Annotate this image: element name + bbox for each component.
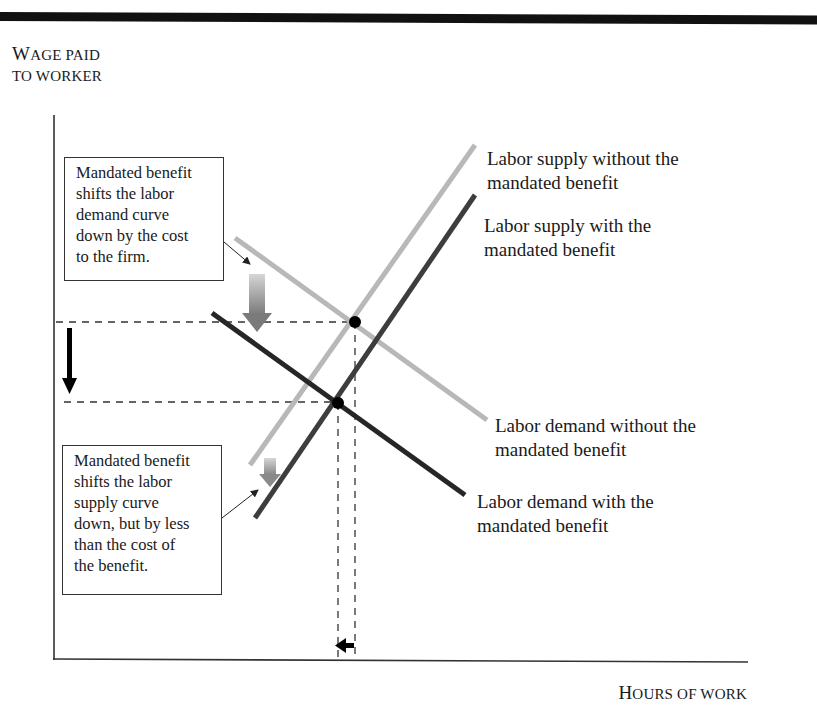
- label-demand-without-benefit: Labor demand without the mandated benefi…: [495, 414, 696, 462]
- labor-supply-with-benefit: [255, 195, 475, 518]
- new-equilibrium-point: [332, 397, 344, 409]
- demand-shift-note: Mandated benefit shifts the labor demand…: [64, 157, 224, 281]
- x-axis-title: HOURS OF WORK: [618, 682, 747, 705]
- initial-equilibrium-point: [349, 316, 361, 328]
- note-line: shifts the labor: [74, 471, 213, 492]
- note-line: to the firm.: [76, 246, 215, 267]
- note-line: Mandated benefit: [74, 450, 213, 471]
- note-line: than the cost of: [74, 534, 213, 555]
- label-line: mandated benefit: [477, 514, 654, 538]
- curves: [212, 145, 487, 518]
- label-line: mandated benefit: [495, 438, 696, 462]
- diagram-canvas: [0, 0, 817, 718]
- label-line: Labor supply with the: [484, 214, 651, 238]
- labor-supply-without-benefit: [250, 145, 475, 465]
- bottom-note-pointer: [222, 490, 258, 518]
- note-line: Mandated benefit: [76, 162, 215, 183]
- y-axis-title: WAGE PAID TO WORKER: [12, 43, 102, 87]
- x-axis-title-rest: OURS OF WORK: [632, 686, 747, 702]
- label-line: mandated benefit: [487, 171, 679, 195]
- label-supply-with-benefit: Labor supply with the mandated benefit: [484, 214, 651, 262]
- y-axis-title-initial: W: [12, 43, 30, 64]
- note-line: the benefit.: [74, 555, 213, 576]
- label-demand-with-benefit: Labor demand with the mandated benefit: [477, 490, 654, 538]
- note-line: supply curve: [74, 492, 213, 513]
- label-line: Labor demand without the: [495, 414, 696, 438]
- demand-shift-arrow-icon: [242, 274, 272, 332]
- wage-decrease-arrow-icon: [62, 328, 77, 394]
- note-line: shifts the labor: [76, 183, 215, 204]
- label-line: Labor supply without the: [487, 147, 679, 171]
- label-line: Labor demand with the: [477, 490, 654, 514]
- labor-demand-without-benefit: [235, 238, 487, 420]
- y-axis-title-line2: TO WORKER: [12, 66, 102, 87]
- y-axis-title-line1: AGE PAID: [30, 47, 100, 63]
- label-supply-without-benefit: Labor supply without the mandated benefi…: [487, 147, 679, 195]
- note-line: down by the cost: [76, 225, 215, 246]
- note-line: demand curve: [76, 204, 215, 225]
- supply-shift-note: Mandated benefit shifts the labor supply…: [62, 445, 222, 595]
- note-line: down, but by less: [74, 513, 213, 534]
- x-axis-title-initial: H: [618, 682, 632, 703]
- x-axis: [53, 659, 748, 662]
- label-line: mandated benefit: [484, 238, 651, 262]
